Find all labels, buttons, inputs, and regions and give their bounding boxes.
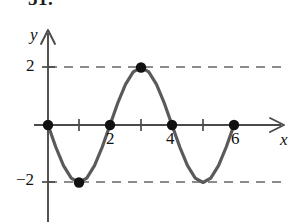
graph-canvas	[0, 0, 297, 222]
data-point	[74, 177, 84, 187]
x-tick-label-2: 2	[106, 130, 115, 147]
y-tick-label-negative-2: −2	[16, 171, 34, 188]
x-tick-label-4: 4	[166, 130, 175, 147]
function-graph-figure: 51. y x 2 −2 2 4 6	[0, 0, 297, 222]
y-tick-label-positive-2: 2	[26, 57, 35, 74]
x-tick-label-6: 6	[231, 130, 240, 147]
data-point	[136, 62, 146, 72]
x-axis-label: x	[280, 131, 288, 148]
y-axis-label: y	[30, 26, 38, 43]
data-point	[43, 120, 53, 130]
